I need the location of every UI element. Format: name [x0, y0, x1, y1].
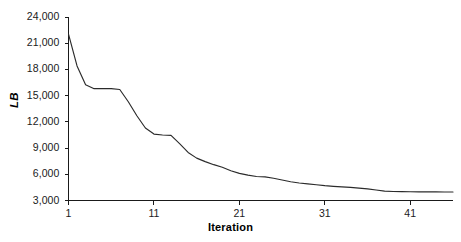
x-tick-label: 11: [134, 207, 174, 219]
lb-curve: [69, 34, 454, 192]
y-tick-label: 24,000: [0, 10, 60, 22]
chart-figure: 3,0006,0009,00012,00015,00018,00021,0002…: [0, 0, 461, 242]
y-tick-label: 6,000: [0, 167, 60, 179]
x-tick-label: 31: [305, 207, 345, 219]
y-tick-label: 21,000: [0, 36, 60, 48]
x-tick-label: 1: [49, 207, 89, 219]
y-axis-label: LB: [8, 92, 20, 108]
y-tick-label: 18,000: [0, 62, 60, 74]
data-series-group: [69, 34, 454, 192]
y-tick-label: 3,000: [0, 194, 60, 206]
y-tick-label: 9,000: [0, 141, 60, 153]
axes-group: [69, 17, 454, 201]
x-tick-label: 21: [219, 207, 259, 219]
x-axis-label: Iteration: [0, 221, 461, 233]
x-tick-label: 41: [390, 207, 430, 219]
y-tick-label: 12,000: [0, 115, 60, 127]
x-tick-marks: [69, 201, 411, 205]
y-tick-marks: [65, 17, 69, 201]
